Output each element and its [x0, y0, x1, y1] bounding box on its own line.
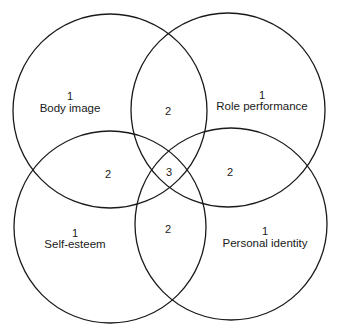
venn-diagram: 1 Body image 1 Role performance 1 Self-e… [0, 0, 337, 331]
personal-identity-label: Personal identity [222, 238, 307, 250]
circle-self-esteem [14, 131, 206, 323]
overlap-right-count: 2 [227, 167, 233, 178]
self-esteem-count: 1 [72, 228, 78, 239]
overlap-center-count: 3 [166, 167, 172, 178]
overlap-bottom-count: 2 [165, 224, 171, 235]
overlap-left-count: 2 [105, 169, 111, 180]
body-image-label: Body image [40, 103, 101, 115]
role-performance-label: Role performance [216, 101, 307, 113]
overlap-top-count: 2 [165, 106, 171, 117]
self-esteem-label: Self-esteem [44, 239, 105, 251]
circle-personal-identity [135, 128, 327, 320]
personal-identity-count: 1 [262, 226, 268, 237]
role-performance-count: 1 [259, 90, 265, 101]
body-image-count: 1 [67, 91, 73, 102]
